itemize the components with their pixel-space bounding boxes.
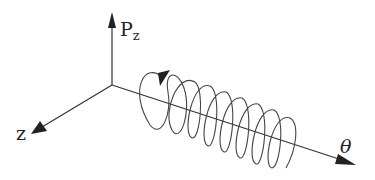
diagram-svg: [0, 0, 375, 180]
diagram-canvas: Pz z θ: [0, 0, 375, 180]
theta-axis: [112, 85, 342, 160]
pz-arrowhead-icon: [108, 12, 116, 28]
z-arrowhead-icon: [31, 121, 47, 134]
z-axis: [42, 85, 112, 127]
theta-axis-label: θ: [340, 137, 351, 156]
pz-axis-label: Pz: [120, 20, 140, 42]
helix: [140, 73, 296, 168]
z-axis-label: z: [16, 124, 26, 143]
